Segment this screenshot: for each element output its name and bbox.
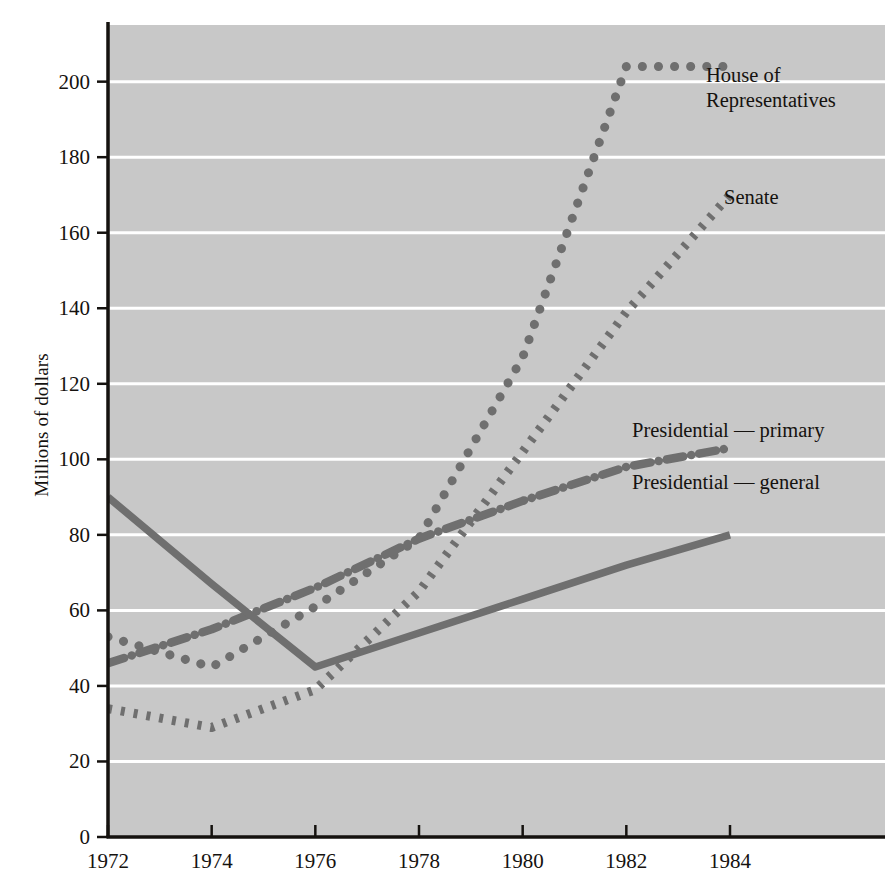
house-of-representatives-label: House of Representatives (706, 63, 885, 113)
presidential-general-label: Presidential — general (632, 470, 820, 495)
senate-label: Senate (724, 185, 779, 210)
chart-plot-area (0, 0, 885, 890)
y-axis-title: Millions of dollars (31, 305, 53, 545)
chart-figure: Millions of dollars 02040608010012014016… (0, 0, 885, 890)
presidential-primary-label: Presidential — primary (632, 418, 824, 443)
